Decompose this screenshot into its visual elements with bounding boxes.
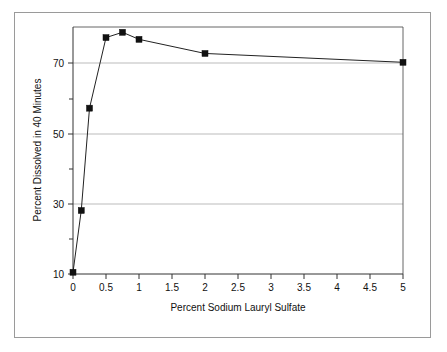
x-tick-label-2.5: 2.5 [231,282,245,293]
figure-container: 70 50 30 10 0 0.5 1 [0,0,447,352]
x-tick-label-2: 2 [202,282,208,293]
series-markers [70,29,406,275]
data-series [70,29,406,275]
plot-frame [73,27,403,274]
y-tick-label-70: 70 [53,58,65,69]
x-tick-label-3: 3 [268,282,274,293]
data-point-marker [70,269,76,275]
x-tick-label-0.5: 0.5 [99,282,113,293]
chart-plot-area: 70 50 30 10 0 0.5 1 [0,0,447,352]
x-tick-label-5: 5 [400,282,406,293]
data-point-marker [202,50,208,56]
y-tick-label-50: 50 [53,129,65,140]
x-tick-label-1.5: 1.5 [165,282,179,293]
grid-lines [73,63,403,204]
x-tick-label-4.5: 4.5 [363,282,377,293]
x-tick-label-4: 4 [334,282,340,293]
x-tick-label-0: 0 [70,282,76,293]
data-point-marker [103,35,109,41]
x-axis: 0 0.5 1 1.5 2 2.5 3 3.5 4 4.5 5 [70,274,406,293]
data-point-marker [136,36,142,42]
x-axis-title: Percent Sodium Lauryl Sulfate [170,302,306,313]
y-axis-title: Percent Dissolved in 40 Minutes [32,79,43,222]
x-tick-label-1: 1 [136,282,142,293]
data-point-marker [400,59,406,65]
y-tick-label-30: 30 [53,199,65,210]
y-axis: 70 50 30 10 [53,27,73,280]
series-line-path [73,32,403,272]
y-tick-label-10: 10 [53,269,65,280]
line-chart: 70 50 30 10 0 0.5 1 [0,0,447,352]
data-point-marker [87,105,93,111]
data-point-marker [120,29,126,35]
x-tick-label-3.5: 3.5 [297,282,311,293]
data-point-marker [78,207,84,213]
